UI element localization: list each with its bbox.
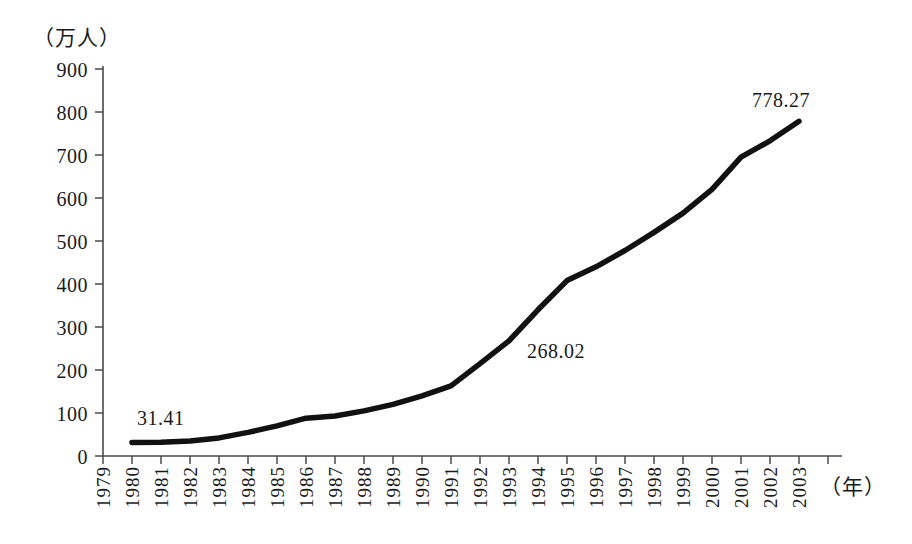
- line-chart: （万人） （年） 900 800 700 600 500 400 300 200…: [0, 0, 912, 544]
- y-axis-ticks: [95, 69, 103, 456]
- chart-canvas: [0, 0, 912, 544]
- data-series-line: [132, 121, 799, 442]
- x-axis-ticks: [103, 456, 828, 464]
